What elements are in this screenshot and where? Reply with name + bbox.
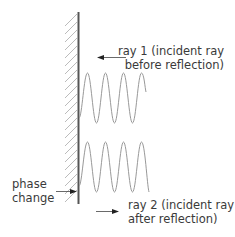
phase-label-line2: change	[12, 191, 54, 205]
ray2-label: ray 2 (incident ray after reflection)	[128, 198, 234, 226]
incident-wave	[79, 73, 146, 123]
arrow-right-icon	[96, 209, 119, 214]
ray2-label-line2: after reflection)	[128, 212, 234, 226]
ray1-label-line1: ray 1 (incident ray	[118, 44, 224, 58]
ray1-label-line2: before reflection)	[118, 58, 224, 72]
phase-label-line1: phase	[12, 177, 54, 191]
ray1-label: ray 1 (incident ray before reflection)	[118, 44, 224, 72]
reflected-wave	[79, 142, 149, 192]
wall-hatching	[65, 14, 77, 202]
phase-label: phase change	[12, 177, 54, 205]
ray2-label-line1: ray 2 (incident ray	[128, 198, 234, 212]
